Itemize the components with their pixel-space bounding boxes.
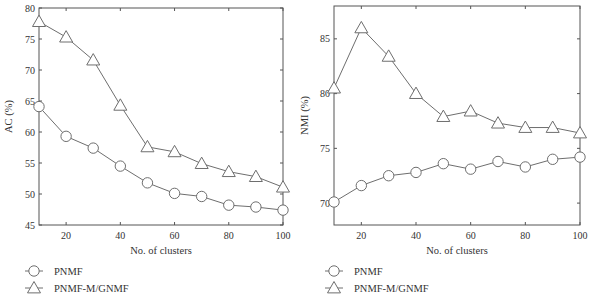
x-axis-title: No. of clusters: [130, 245, 192, 256]
series-line: [334, 28, 580, 133]
plot-frame: [39, 8, 283, 225]
legend-label: PNMF: [54, 266, 83, 277]
legend-label: PNMF: [354, 266, 383, 277]
triangle-marker-icon: [28, 282, 41, 293]
series-line: [39, 22, 283, 188]
circle-marker-icon: [493, 156, 503, 166]
circle-marker-icon: [547, 154, 557, 164]
circle-marker-icon: [438, 158, 448, 168]
legend-item: PNMF-M/GNMF: [25, 282, 129, 295]
series-line: [334, 157, 580, 202]
circle-marker-icon: [329, 266, 339, 276]
series-pnmf: [34, 101, 288, 215]
y-tick-label: 75: [25, 34, 35, 45]
y-tick-label: 65: [25, 96, 35, 107]
triangle-marker-icon: [277, 181, 290, 192]
circle-marker-icon: [29, 266, 39, 276]
circle-marker-icon: [465, 164, 475, 174]
y-axis-title: AC (%): [3, 100, 15, 133]
x-tick-label: 60: [170, 230, 180, 241]
triangle-marker-icon: [222, 165, 235, 176]
triangle-marker-icon: [410, 87, 423, 98]
triangle-marker-icon: [195, 157, 208, 168]
triangle-marker-icon: [87, 54, 100, 65]
y-tick-label: 80: [320, 88, 330, 99]
y-tick-label: 70: [25, 65, 35, 76]
circle-marker-icon: [142, 178, 152, 188]
triangle-marker-icon: [60, 31, 73, 42]
y-tick-label: 60: [25, 127, 35, 138]
circle-marker-icon: [34, 101, 44, 111]
y-tick-label: 45: [25, 220, 35, 231]
y-axis-title: NMI (%): [299, 96, 311, 135]
circle-marker-icon: [196, 191, 206, 201]
x-tick-label: 100: [573, 230, 588, 241]
x-axis-title: No. of clusters: [426, 245, 488, 256]
circle-marker-icon: [575, 152, 585, 162]
x-tick-label: 20: [61, 230, 71, 241]
legend-item: PNMF-M/GNMF: [325, 282, 429, 295]
triangle-marker-icon: [114, 99, 127, 110]
y-tick-label: 80: [25, 3, 35, 14]
triangle-marker-icon: [546, 121, 559, 132]
plot-frame: [334, 6, 580, 225]
legend-item: PNMF: [25, 266, 83, 277]
x-tick-label: 100: [276, 230, 291, 241]
circle-marker-icon: [411, 167, 421, 177]
y-tick-label: 55: [25, 158, 35, 169]
legend-label: PNMF-M/GNMF: [54, 283, 129, 294]
legend-label: PNMF-M/GNMF: [354, 283, 429, 294]
circle-marker-icon: [61, 131, 71, 141]
circle-marker-icon: [278, 205, 288, 215]
x-tick-label: 20: [356, 230, 366, 241]
series-pnmf-m-gnmf: [328, 21, 587, 137]
triangle-marker-icon: [33, 15, 46, 26]
circle-marker-icon: [169, 188, 179, 198]
y-tick-label: 85: [320, 33, 330, 44]
circle-marker-icon: [224, 200, 234, 210]
triangle-marker-icon: [492, 117, 505, 128]
circle-marker-icon: [520, 162, 530, 172]
circle-marker-icon: [356, 180, 366, 190]
circle-marker-icon: [329, 197, 339, 207]
y-tick-label: 75: [320, 143, 330, 154]
circle-marker-icon: [383, 171, 393, 181]
circle-marker-icon: [88, 143, 98, 153]
x-tick-label: 60: [466, 230, 476, 241]
x-tick-label: 80: [224, 230, 234, 241]
circle-marker-icon: [115, 161, 125, 171]
nmi-chart-panel: 2040608010070758085No. of clustersNMI (%…: [299, 6, 588, 294]
x-tick-label: 40: [411, 230, 421, 241]
series-line: [39, 107, 283, 211]
triangle-marker-icon: [141, 140, 154, 151]
y-tick-label: 50: [25, 189, 35, 200]
x-tick-label: 80: [520, 230, 530, 241]
triangle-marker-icon: [464, 105, 477, 116]
ac-chart-panel: 204060801004550556065707580No. of cluste…: [3, 3, 291, 295]
chart-figure: 204060801004550556065707580No. of cluste…: [0, 0, 593, 302]
legend-item: PNMF: [325, 266, 383, 277]
series-pnmf: [329, 152, 585, 207]
series-pnmf-m-gnmf: [33, 15, 290, 192]
circle-marker-icon: [251, 202, 261, 212]
triangle-marker-icon: [328, 282, 341, 293]
x-tick-label: 40: [115, 230, 125, 241]
triangle-marker-icon: [355, 21, 368, 32]
